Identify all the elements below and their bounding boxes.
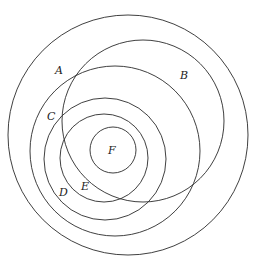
label-d: D	[58, 186, 68, 199]
nested-circles-diagram: A B C D E F	[0, 0, 257, 265]
circle-a	[8, 15, 248, 255]
label-e: E	[80, 180, 89, 193]
label-f: F	[107, 144, 116, 157]
label-b: B	[179, 69, 188, 82]
label-a: A	[54, 64, 63, 77]
label-c: C	[47, 110, 56, 123]
